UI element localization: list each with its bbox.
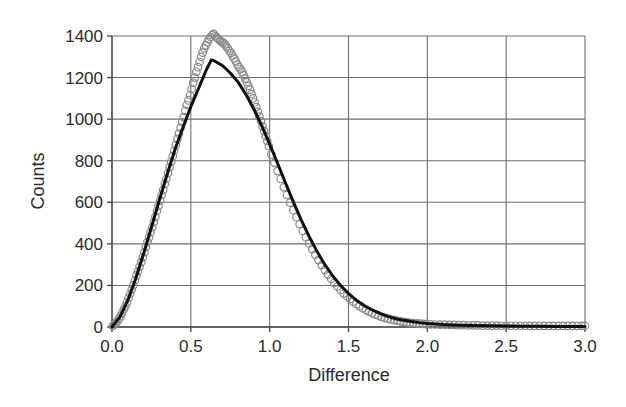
x-tick-label: 1.0	[258, 337, 282, 356]
x-tick-label: 3.0	[573, 337, 597, 356]
y-tick-label: 200	[75, 276, 103, 295]
y-tick-label: 800	[75, 152, 103, 171]
x-tick-label: 2.5	[494, 337, 518, 356]
y-axis-title: Counts	[28, 152, 48, 209]
y-tick-label: 600	[75, 193, 103, 212]
y-tick-label: 400	[75, 235, 103, 254]
x-tick-label: 2.0	[416, 337, 440, 356]
x-tick-label: 1.5	[337, 337, 361, 356]
y-tick-label: 1400	[65, 27, 103, 46]
chart-figure: 0.00.51.01.52.02.53.0 020040060080010001…	[0, 0, 626, 407]
scatter-plot-svg: 0.00.51.01.52.02.53.0 020040060080010001…	[0, 0, 626, 407]
x-axis-title: Difference	[308, 365, 390, 385]
x-tick-label: 0.0	[100, 337, 124, 356]
y-tick-label: 0	[94, 318, 103, 337]
y-tick-label: 1200	[65, 69, 103, 88]
x-tick-label: 0.5	[179, 337, 203, 356]
y-tick-label: 1000	[65, 110, 103, 129]
